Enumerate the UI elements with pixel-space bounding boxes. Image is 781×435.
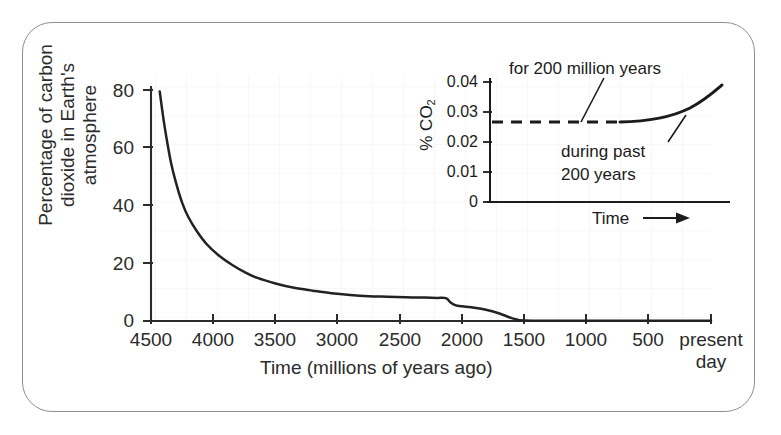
inset-yaxis-title-subscript: 2 (425, 99, 437, 105)
inset-annotation-during-past-200-years: during past 200 years (561, 140, 645, 186)
main-xtick-present: present (671, 330, 751, 350)
main-yaxis-title: Percentage of carbon dioxide in Earth's … (35, 5, 101, 265)
figure-root: 80 60 40 20 0 4500 4000 3500 3000 2500 2… (0, 0, 781, 435)
inset-yaxis-title: % CO2 (417, 85, 437, 165)
inset-ytick-001: 0.01 (432, 164, 478, 180)
main-xtick-present-day: day (671, 352, 751, 372)
main-xaxis-title: Time (millions of years ago) (260, 357, 493, 379)
main-ytick-0: 0 (90, 311, 134, 330)
inset-ytick-0: 0 (432, 194, 478, 210)
main-yaxis-title-wrap: Percentage of carbon dioxide in Earth's … (35, 5, 105, 265)
inset-yaxis-title-prefix: % CO (417, 105, 436, 150)
inset-yaxis-title-wrap: % CO2 (417, 85, 441, 165)
inset-annotation-for-200-million-years: for 200 million years (509, 59, 661, 79)
inset-xaxis-title: Time (592, 209, 629, 229)
